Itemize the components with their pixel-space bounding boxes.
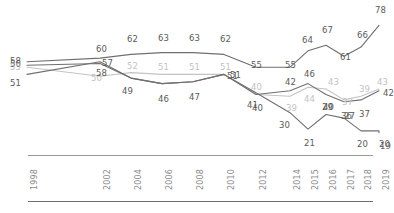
data-point-label: 39	[359, 85, 370, 94]
data-point-label: 51	[230, 71, 241, 80]
data-point-label: 62	[220, 35, 231, 44]
data-point-label: 52	[127, 62, 138, 71]
x-axis-tick-label: 2004	[134, 169, 143, 190]
data-point-label: 57	[102, 59, 113, 68]
data-point-label: 51	[189, 63, 200, 72]
data-point-label: 43	[328, 78, 339, 87]
data-point-label: 30	[279, 121, 290, 130]
x-axis-tick-label: 2019	[382, 169, 391, 190]
data-point-label: 41	[247, 101, 258, 110]
data-point-label: 46	[304, 70, 315, 79]
x-axis: 1998200220042006200820102012201420152016…	[0, 150, 394, 213]
data-point-label: 43	[377, 78, 388, 87]
data-point-label: 61	[340, 53, 351, 62]
data-point-label: 40	[251, 83, 262, 92]
plot-area: 5860626363625555646761667856574946475140…	[0, 0, 394, 150]
x-axis-tick-label: 2006	[165, 169, 174, 190]
data-point-label: 55	[251, 61, 262, 70]
data-point-label: 37	[359, 110, 370, 119]
data-point-label: 67	[322, 26, 333, 35]
data-point-label: 63	[158, 34, 169, 43]
axis-top-rule	[28, 155, 373, 156]
data-point-label: 19	[380, 142, 391, 151]
x-axis-tick-label: 1998	[30, 169, 39, 190]
series-paths	[27, 25, 379, 132]
data-point-label: 64	[302, 36, 313, 45]
x-axis-tick-label: 2012	[259, 169, 268, 190]
data-point-label: 27	[344, 112, 355, 121]
data-point-label: 21	[304, 139, 315, 148]
data-point-label: 63	[189, 34, 200, 43]
data-point-label: 51	[158, 63, 169, 72]
x-axis-tick-label: 2017	[347, 169, 356, 190]
data-point-label: 49	[122, 87, 133, 96]
data-point-label: 55	[285, 61, 296, 70]
x-axis-tick-label: 2002	[103, 169, 112, 190]
data-point-label: 39	[286, 104, 297, 113]
data-point-label: 44	[304, 95, 315, 104]
data-point-label: 62	[127, 35, 138, 44]
data-point-label: 58	[96, 69, 107, 78]
data-point-label: 66	[357, 31, 368, 40]
data-point-label: 51	[10, 79, 21, 88]
data-point-label: 37	[342, 98, 353, 107]
x-axis-tick-label: 2010	[227, 169, 236, 190]
series-line	[27, 62, 379, 133]
data-point-label: 42	[285, 78, 296, 87]
data-point-label: 47	[189, 93, 200, 102]
data-point-label: 55	[10, 63, 21, 72]
series-line	[27, 64, 379, 102]
data-point-label: 78	[375, 6, 386, 15]
data-point-label: 46	[158, 95, 169, 104]
axis-bottom-rule	[28, 201, 373, 202]
x-axis-tick-label: 2008	[196, 169, 205, 190]
data-point-label: 60	[96, 45, 107, 54]
data-point-label: 29	[322, 103, 333, 112]
x-axis-tick-label: 2016	[329, 169, 338, 190]
data-point-label: 20	[357, 140, 368, 149]
x-axis-tick-label: 2018	[364, 169, 373, 190]
line-chart: 5860626363625555646761667856574946475140…	[0, 0, 394, 213]
chart-lines-svg	[0, 0, 394, 150]
data-point-label: 42	[383, 89, 394, 98]
x-axis-tick-label: 2014	[293, 169, 302, 190]
x-axis-tick-label: 2015	[311, 169, 320, 190]
